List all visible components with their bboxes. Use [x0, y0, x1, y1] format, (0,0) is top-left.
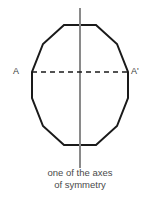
caption-line-2: of symmetry [0, 179, 160, 191]
vertex-label-a-prime: A' [131, 67, 139, 76]
vertex-label-a: A [13, 67, 19, 76]
caption-line-1: one of the axes [0, 167, 160, 179]
figure-caption: one of the axes of symmetry [0, 167, 160, 190]
geometry-figure: A A' one of the axes of symmetry [0, 0, 160, 204]
